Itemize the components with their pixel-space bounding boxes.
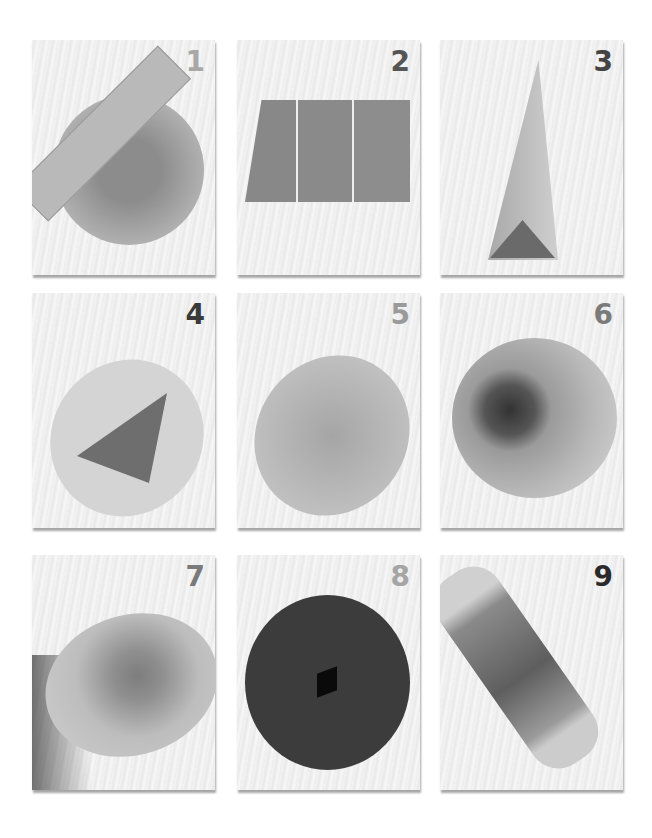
covered-tube-end [237,325,420,528]
step-number: 1 [186,48,205,76]
finished-tube [440,555,610,780]
step-panel-7: 7 [32,555,215,790]
step-number: 3 [594,48,613,76]
step-panel-8: 8 [237,555,420,790]
step-panel-6: 6 [440,293,623,528]
step-number: 9 [594,563,613,591]
step-number: 4 [186,301,205,329]
step-panel-3: 3 [440,40,623,275]
step-number: 5 [391,301,410,329]
scored-sheet [245,100,410,270]
step-panel-2: 2 [237,40,420,275]
step-number: 7 [186,563,205,591]
step-number: 2 [391,48,410,76]
step-panel-5: 5 [237,293,420,528]
step-number: 6 [594,301,613,329]
step-panel-1: 1 [32,40,215,275]
step-number: 8 [391,563,410,591]
step-panel-4: 4 [32,293,215,528]
step-panel-9: 9 [440,555,623,790]
sequin-circle [452,338,617,498]
